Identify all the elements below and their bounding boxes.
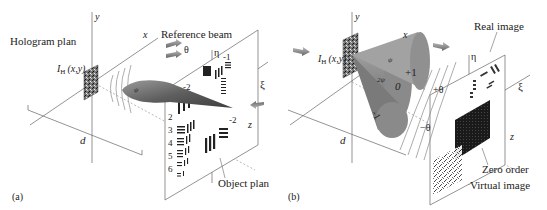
eta-label-a: η: [214, 47, 219, 58]
x-axis-label-b: x: [402, 29, 408, 40]
svg-text:-2: -2: [229, 115, 237, 125]
panel-a-tag: (a): [12, 191, 23, 203]
xi-label-a: ξ: [260, 78, 265, 91]
svg-text:-1: -1: [223, 52, 231, 62]
holography-figure: ψ Hologram plan IH(x,y) y x Reference be…: [0, 0, 547, 210]
order-zero-label: 0: [395, 80, 401, 92]
order-plus-label: +1: [405, 66, 417, 78]
real-image-label: Real image: [474, 20, 524, 32]
diffraction-cones-b: [352, 32, 430, 138]
z-axis-label-b: z: [509, 131, 514, 142]
plus-theta-label: +θ: [433, 84, 444, 95]
xi-label-b: ξ: [518, 80, 523, 93]
zero-order-label: Zero order: [482, 163, 529, 175]
two-psi-label: 2ψ: [377, 76, 386, 84]
distance-label-b: d: [340, 134, 346, 146]
svg-text:4: 4: [168, 138, 173, 148]
distance-line-a: [28, 110, 142, 155]
distance-label-a: d: [80, 134, 86, 146]
svg-text:-2: -2: [183, 82, 191, 92]
hologram-plate-a: [84, 65, 98, 100]
y-axis-label-a: y: [94, 11, 100, 22]
svg-text:2: 2: [168, 112, 173, 122]
virtual-image-label: Virtual image: [470, 179, 530, 191]
panel-a: ψ Hologram plan IH(x,y) y x Reference be…: [10, 11, 270, 203]
diagram-svg: ψ Hologram plan IH(x,y) y x Reference be…: [0, 0, 547, 210]
object-plan-label: Object plan: [218, 177, 270, 189]
eta-label-b: η: [471, 51, 476, 62]
y-axis-label-b: y: [354, 11, 360, 22]
svg-text:5: 5: [168, 151, 173, 161]
intensity-label-a: IH(x,y): [56, 63, 86, 76]
intensity-label-b: IH(x,y): [317, 53, 347, 66]
theta-label-a: θ: [184, 44, 189, 55]
panel-b-tag: (b): [288, 191, 300, 203]
psi-label: ψ: [388, 56, 393, 64]
panel-b: IH(x,y) y x Real image η ξ z +1 0 -1 ψ 2…: [288, 11, 530, 205]
svg-text:6: 6: [168, 164, 173, 174]
svg-text:ψ: ψ: [134, 86, 139, 94]
svg-text:3: 3: [168, 125, 173, 135]
reference-beam-label: Reference beam: [161, 28, 233, 40]
z-axis-label-a: z: [247, 119, 252, 130]
minus-theta-label: −θ: [420, 122, 431, 133]
hologram-plan-label: Hologram plan: [10, 35, 77, 47]
x-axis-label-a: x: [142, 29, 148, 40]
